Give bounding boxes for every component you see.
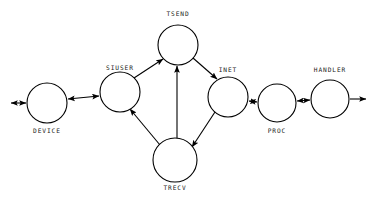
node-proc[interactable] bbox=[258, 84, 296, 122]
node-label-tsend: TSEND bbox=[166, 10, 189, 17]
node-label-siuser: SIUSER bbox=[106, 64, 134, 71]
node-device[interactable] bbox=[27, 83, 67, 123]
node-label-proc: PROC bbox=[268, 127, 287, 134]
diagram-svg: DEVICE SIUSER TSEND INET PROC HANDLER TR… bbox=[0, 0, 380, 200]
node-label-inet: INET bbox=[219, 66, 238, 73]
node-siuser[interactable] bbox=[100, 72, 140, 112]
edge-siuser-tsend bbox=[134, 59, 163, 78]
node-label-device: DEVICE bbox=[33, 127, 61, 134]
diagram-canvas: DEVICE SIUSER TSEND INET PROC HANDLER TR… bbox=[0, 0, 380, 200]
node-label-trecv: TRECV bbox=[163, 184, 186, 191]
edge-inet-proc bbox=[249, 101, 257, 102]
node-handler[interactable] bbox=[311, 80, 349, 118]
edge-tsend-inet bbox=[193, 58, 217, 79]
node-inet[interactable] bbox=[208, 77, 248, 117]
edge-inet-trecv bbox=[192, 112, 215, 147]
edge-proc-handler bbox=[297, 100, 310, 101]
node-label-handler: HANDLER bbox=[314, 66, 346, 73]
edge-device-siuser bbox=[68, 96, 99, 99]
edge-trecv-siuser bbox=[130, 109, 160, 145]
node-tsend[interactable] bbox=[158, 25, 198, 65]
node-trecv[interactable] bbox=[153, 138, 197, 182]
